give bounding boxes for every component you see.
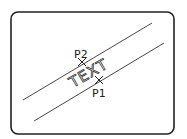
- p2-label: P2: [74, 48, 88, 61]
- p1-label: P1: [92, 87, 106, 100]
- diagram-canvas: P2 P1 TEXT: [0, 0, 187, 139]
